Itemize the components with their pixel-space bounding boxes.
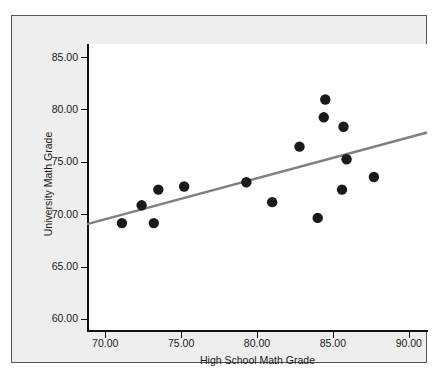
y-axis-tick <box>81 162 87 163</box>
y-axis-line <box>87 44 89 332</box>
y-axis-tick-label: 60.00 <box>26 313 78 324</box>
scatter-plot-figure: 60.0065.0070.0075.0080.0085.00 70.0075.0… <box>0 0 439 375</box>
y-axis-tick <box>81 109 87 110</box>
x-axis-tick-label: 90.00 <box>381 338 437 349</box>
y-axis-tick <box>81 319 87 320</box>
x-axis-tick-label: 80.00 <box>229 338 285 349</box>
x-axis-tick-label: 75.00 <box>153 338 209 349</box>
y-axis-tick <box>81 57 87 58</box>
y-axis-tick <box>81 267 87 268</box>
y-axis-tick-label: 85.00 <box>26 52 78 63</box>
x-axis-tick-label: 85.00 <box>305 338 361 349</box>
x-axis-tick-label: 70.00 <box>77 338 133 349</box>
plot-area <box>87 44 427 331</box>
y-axis-title: University Math Grade <box>42 79 54 289</box>
y-axis-tick <box>81 214 87 215</box>
chart-panel: 60.0065.0070.0075.0080.0085.00 70.0075.0… <box>11 15 427 363</box>
x-axis-title: High School Math Grade <box>87 354 428 366</box>
